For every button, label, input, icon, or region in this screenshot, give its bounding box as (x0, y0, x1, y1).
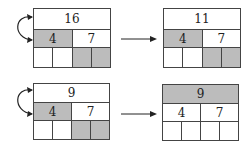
bottom-cell (53, 121, 72, 139)
bottom-cell (220, 122, 238, 140)
bottom-cell (203, 48, 222, 67)
top-cell: 9 (163, 85, 238, 103)
bottom-cell (72, 121, 91, 139)
middle-row: 4 7 (34, 103, 109, 121)
bottom-cell (201, 122, 220, 140)
middle-left-cell: 4 (163, 104, 201, 121)
top-row: 11 (164, 9, 240, 30)
right-arrow-icon (120, 110, 158, 118)
middle-right-cell: 7 (203, 30, 241, 47)
bottom-cell (91, 121, 109, 139)
bottom-cell (34, 121, 53, 139)
bottom-cell (183, 48, 202, 67)
diagram1-before-box: 16 4 7 (33, 8, 111, 68)
bottom-row (34, 121, 109, 139)
bottom-row (164, 48, 240, 67)
diagram2-after-box: 9 4 7 (162, 84, 239, 141)
bottom-cell (53, 48, 72, 67)
middle-right-cell: 7 (201, 104, 238, 121)
bottom-row (163, 122, 238, 140)
middle-left-cell: 4 (34, 30, 73, 47)
curved-double-arrow-icon (8, 84, 36, 120)
middle-right-cell: 7 (72, 103, 109, 120)
bottom-cell (222, 48, 240, 67)
diagram2-before-box: 9 4 7 (33, 83, 110, 140)
right-arrow-icon (120, 35, 158, 43)
bottom-cell (164, 48, 183, 67)
curved-double-arrow-icon (8, 10, 36, 46)
top-row: 16 (34, 9, 110, 30)
middle-left-cell: 4 (34, 103, 72, 120)
middle-left-cell: 4 (164, 30, 203, 47)
middle-right-cell: 7 (73, 30, 111, 47)
bottom-cell (34, 48, 53, 67)
middle-row: 4 7 (34, 30, 110, 48)
top-row: 9 (163, 85, 238, 104)
top-cell: 16 (34, 9, 110, 29)
diagram1-after-box: 11 4 7 (163, 8, 241, 68)
top-cell: 9 (34, 84, 109, 102)
bottom-cell (73, 48, 92, 67)
top-cell: 11 (164, 9, 240, 29)
bottom-row (34, 48, 110, 67)
bottom-cell (92, 48, 110, 67)
bottom-cell (163, 122, 182, 140)
middle-row: 4 7 (164, 30, 240, 48)
bottom-cell (182, 122, 201, 140)
top-row: 9 (34, 84, 109, 103)
middle-row: 4 7 (163, 104, 238, 122)
